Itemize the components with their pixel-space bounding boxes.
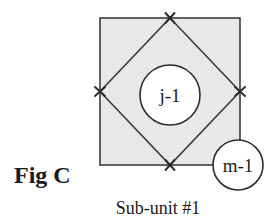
figure-caption: Sub-unit #1 [116, 198, 201, 218]
figure-label: Fig C [14, 162, 71, 188]
figure-container: j-1 m-1 Fig C Sub-unit #1 [0, 0, 276, 223]
corner-node-label: m-1 [223, 155, 254, 176]
sub-unit-diagram: j-1 m-1 Fig C Sub-unit #1 [0, 0, 276, 223]
inner-node-label: j-1 [158, 85, 180, 106]
